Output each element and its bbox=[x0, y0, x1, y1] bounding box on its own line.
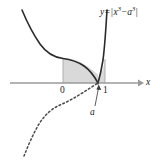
equation-label: y=|x3−a3| bbox=[100, 8, 138, 18]
x-axis-label: x bbox=[146, 78, 150, 88]
a-leader-arrowhead bbox=[96, 84, 101, 90]
shaded-region-left bbox=[63, 59, 98, 84]
graph-canvas bbox=[0, 0, 160, 165]
x-axis-arrowhead bbox=[138, 80, 144, 87]
equation-equals: = bbox=[104, 7, 110, 17]
a-leader-line bbox=[95, 88, 99, 106]
x-tick-label-0: 0 bbox=[60, 86, 65, 96]
x-tick-label-1: 1 bbox=[103, 86, 108, 96]
math-figure: y=|x3−a3| x 0 1 a bbox=[0, 0, 160, 165]
point-a-label: a bbox=[90, 108, 95, 118]
equation-close-bar: | bbox=[135, 7, 138, 17]
